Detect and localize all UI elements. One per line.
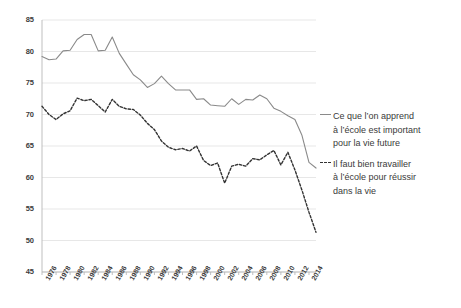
gridlines [42, 20, 316, 272]
y-tick-label: 85 [14, 15, 34, 24]
y-tick-label: 70 [14, 110, 34, 119]
legend-entry-travailler-ecole: Il faut bien travailler à l’école pour r… [320, 158, 458, 199]
dashed-line-marker-icon [320, 162, 331, 163]
chart-legend: Ce que l’on apprend à l’école est import… [320, 110, 458, 205]
solid-line-marker-icon [320, 114, 331, 115]
legend-label-line1: Il faut bien travailler [333, 158, 458, 172]
y-tick-label: 45 [14, 267, 34, 276]
legend-label-line2: à l’école pour réussir [333, 171, 458, 185]
legend-label-line2: à l’école est important [333, 124, 458, 138]
series-line-travailler-ecole [42, 98, 316, 232]
y-tick-label: 65 [14, 141, 34, 150]
y-tick-label: 50 [14, 236, 34, 245]
y-tick-label: 80 [14, 47, 34, 56]
legend-label-line3: pour la vie future [333, 137, 458, 151]
y-tick-label: 55 [14, 204, 34, 213]
line-chart: 858075706560555045 197619781980198219841… [0, 0, 461, 308]
y-tick-label: 75 [14, 78, 34, 87]
series-line-apprend-ecole [42, 34, 316, 168]
y-tick-label: 60 [14, 173, 34, 182]
legend-label-line1: Ce que l’on apprend [333, 110, 458, 124]
legend-label-line3: dans la vie [333, 185, 458, 199]
data-series-group [42, 34, 316, 232]
legend-entry-apprend-ecole: Ce que l’on apprend à l’école est import… [320, 110, 458, 151]
